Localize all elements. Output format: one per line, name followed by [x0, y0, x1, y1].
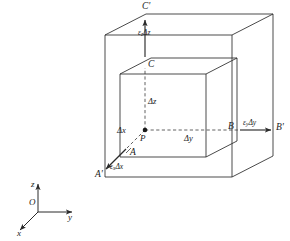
label-B-prime: B' [276, 123, 284, 133]
inner-box-front-face [120, 74, 206, 157]
label-axis-origin: O [29, 198, 36, 207]
inner-original-box [120, 58, 237, 157]
label-strain-ez-dz: εzΔz [138, 29, 150, 38]
label-delta-z: Δz [148, 97, 156, 106]
label-B: B [228, 122, 234, 132]
label-strain-ex-dx: εxΔx [110, 163, 123, 172]
label-A-prime: A' [95, 170, 103, 180]
outer-box-bottom-right-receding-edge [232, 156, 273, 177]
label-delta-y: Δy [184, 134, 193, 143]
label-strain-ey-dy: εyΔy [243, 119, 256, 128]
point-P-dot [143, 128, 148, 133]
label-axis-y: y [68, 213, 72, 222]
label-delta-x: Δx [117, 126, 126, 135]
label-P: P [140, 134, 146, 143]
inner-box-top-face [120, 58, 237, 74]
strain-ez-rest: Δz [143, 28, 150, 37]
label-C: C [148, 60, 154, 70]
strain-ex-rest: Δx [115, 162, 123, 171]
label-axis-z: z [31, 180, 35, 189]
outer-box-top-face [105, 14, 273, 35]
label-axis-x: x [17, 229, 21, 238]
coordinate-axes-triad [20, 184, 72, 230]
axis-x-line [20, 212, 38, 230]
label-A: A [130, 148, 136, 158]
label-C-prime: C' [142, 2, 150, 12]
strain-ey-rest: Δy [248, 118, 256, 127]
center-point-marker [143, 128, 148, 133]
figure-container: C' B' A' C B A P Δz Δy Δx εzΔz εyΔy εxΔx… [0, 0, 290, 241]
